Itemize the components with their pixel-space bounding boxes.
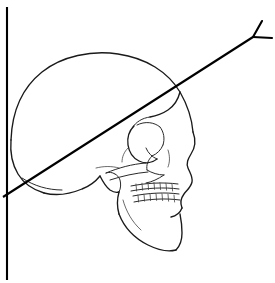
diagonal-fork-right-branch	[253, 37, 272, 38]
figure-background	[0, 0, 275, 283]
skull-diagram-canvas	[0, 0, 275, 283]
skull-diagram-figure	[0, 0, 275, 283]
